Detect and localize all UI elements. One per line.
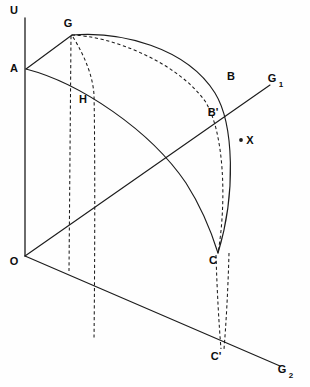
diagram-background [0, 0, 310, 387]
label-g: G [64, 17, 73, 29]
geometric-diagram: U A G H B B' X C C' O G 1 G 2 [0, 0, 310, 387]
label-h: H [79, 93, 87, 105]
label-b: B [227, 70, 235, 82]
label-c-prime: C' [211, 350, 222, 362]
label-g1: G [268, 72, 277, 84]
label-a: A [10, 62, 18, 74]
label-g2: G [278, 363, 287, 375]
point-marker-x [239, 138, 243, 142]
label-x: X [246, 134, 254, 146]
label-b-prime: B' [208, 106, 219, 118]
label-g2-subscript: 2 [289, 371, 294, 380]
label-c: C [209, 254, 217, 266]
label-o: O [10, 255, 19, 267]
diagram-root: U A G H B B' X C C' O G 1 G 2 [0, 0, 310, 387]
label-u: U [10, 4, 18, 16]
label-g1-subscript: 1 [279, 80, 284, 89]
